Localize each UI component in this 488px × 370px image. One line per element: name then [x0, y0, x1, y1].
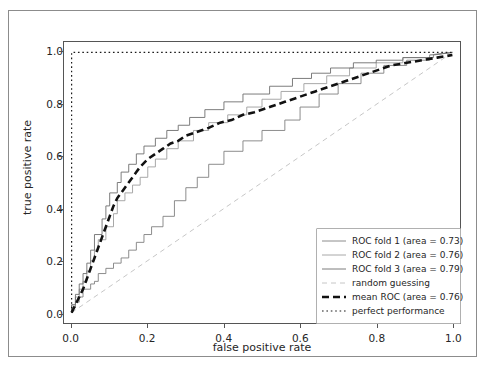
legend-item-fold1[interactable]: ROC fold 1 (area = 0.73): [321, 234, 455, 248]
legend-swatch-fold1: [321, 235, 347, 247]
y-tick-mark: [59, 51, 63, 52]
legend-swatch-mean_roc: [321, 291, 347, 303]
figure-frame: 0.00.20.40.60.81.0 0.00.20.40.60.81.0 fa…: [8, 10, 477, 357]
legend-swatch-fold3: [321, 263, 347, 275]
legend-label: perfect performance: [352, 305, 445, 317]
y-tick-label: 1.0: [23, 45, 63, 57]
legend-label: ROC fold 3 (area = 0.79): [352, 263, 463, 275]
legend-item-fold2[interactable]: ROC fold 2 (area = 0.76): [321, 248, 455, 262]
y-tick-label: 0.2: [23, 255, 63, 267]
x-tick-mark: [453, 324, 454, 328]
y-tick-mark: [59, 314, 63, 315]
legend-swatch-perfect_performance: [321, 305, 347, 317]
chart-legend: ROC fold 1 (area = 0.73)ROC fold 2 (area…: [316, 228, 461, 324]
legend-swatch-fold2: [321, 249, 347, 261]
legend-item-mean_roc[interactable]: mean ROC (area = 0.76): [321, 290, 455, 304]
x-tick-mark: [300, 324, 301, 328]
x-tick-mark: [147, 324, 148, 328]
y-axis-label: true positive rate: [21, 88, 34, 248]
y-tick-label: 0.0: [23, 308, 63, 320]
legend-label: mean ROC (area = 0.76): [352, 291, 463, 303]
y-tick-mark: [59, 156, 63, 157]
x-tick-mark: [71, 324, 72, 328]
y-tick-mark: [59, 261, 63, 262]
y-tick-mark: [59, 104, 63, 105]
x-tick-mark: [377, 324, 378, 328]
legend-label: ROC fold 1 (area = 0.73): [352, 235, 463, 247]
legend-item-fold3[interactable]: ROC fold 3 (area = 0.79): [321, 262, 455, 276]
x-tick-mark: [224, 324, 225, 328]
legend-label: random guessing: [352, 277, 430, 289]
y-tick-mark: [59, 209, 63, 210]
legend-swatch-random_guessing: [321, 277, 347, 289]
legend-item-random_guessing[interactable]: random guessing: [321, 276, 455, 290]
legend-item-perfect_performance[interactable]: perfect performance: [321, 304, 455, 318]
x-axis-label: false positive rate: [63, 341, 461, 354]
legend-label: ROC fold 2 (area = 0.76): [352, 249, 463, 261]
y-axis: 0.00.20.40.60.81.0: [9, 11, 63, 358]
